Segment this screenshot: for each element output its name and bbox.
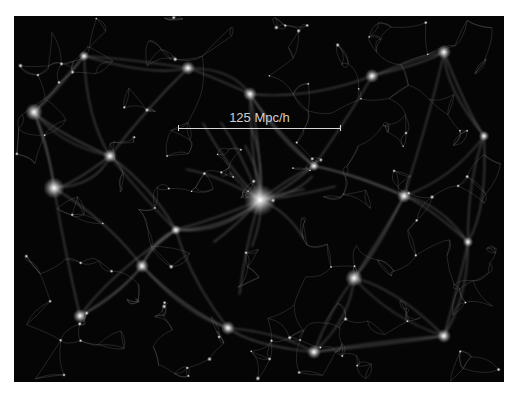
scale-bar [178, 127, 341, 131]
scale-bar-label: 125 Mpc/h [178, 110, 341, 125]
filament-network [14, 16, 504, 382]
cosmic-web-image: 125 Mpc/h [14, 16, 504, 382]
scale-bar-line [178, 128, 341, 129]
scale-bar-right-tick [340, 125, 341, 131]
